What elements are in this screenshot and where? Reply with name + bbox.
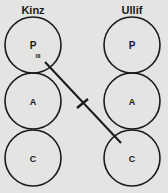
right-child-label: C — [129, 154, 136, 164]
left-parent-subscript: III — [35, 53, 40, 59]
right-parent-label: P — [129, 40, 136, 51]
right-person-name: Ullif — [122, 4, 143, 16]
transaction-diagram: Kinz Ullif P III A C P A C — [0, 0, 168, 193]
left-child-label: C — [30, 154, 37, 164]
left-parent-label: P — [30, 40, 37, 51]
left-person-name: Kinz — [21, 4, 45, 16]
left-adult-label: A — [30, 97, 37, 107]
right-adult-label: A — [129, 97, 136, 107]
